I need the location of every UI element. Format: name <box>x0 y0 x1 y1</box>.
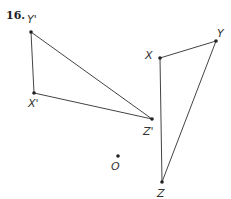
center-label: O <box>111 160 120 173</box>
rotation-diagram: 16. Y'X'Z' XYZ O <box>0 0 231 199</box>
center-point: O <box>111 154 120 173</box>
vertex-label: Z <box>156 187 165 199</box>
vertex-label: X <box>144 49 153 62</box>
vertex-label: X' <box>27 97 39 110</box>
vertex-point <box>29 30 33 34</box>
vertex-point <box>150 117 154 121</box>
vertex-point <box>160 180 164 184</box>
vertex-label: Y' <box>27 13 37 26</box>
vertex-label: Z' <box>142 125 154 138</box>
vertex-point <box>32 91 36 95</box>
center-dot <box>116 154 120 158</box>
problem-number: 16. <box>6 9 25 22</box>
triangle-edges <box>31 32 152 119</box>
vertex-point <box>158 56 162 60</box>
triangle-preimage: XYZ <box>144 27 225 199</box>
vertex-label: Y <box>217 27 225 40</box>
triangle-edges <box>160 41 216 182</box>
triangle-image: Y'X'Z' <box>27 13 154 138</box>
